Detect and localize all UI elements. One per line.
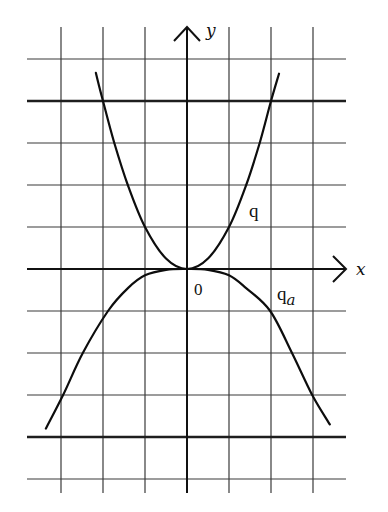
y-axis-label: y [205, 20, 216, 40]
axes: x y 0 [27, 20, 366, 493]
curve-q-a-label: qa [277, 283, 295, 309]
curve-q-label: q [249, 200, 259, 221]
x-axis-label: x [356, 259, 366, 279]
parabola-diagram: x y 0 q qa [0, 0, 388, 512]
origin-label: 0 [194, 280, 203, 299]
